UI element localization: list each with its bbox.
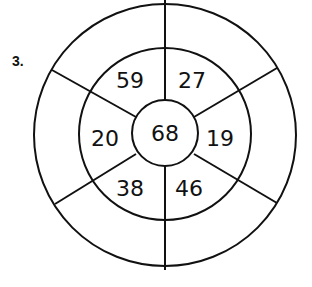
inner-bottom-left-value: 38: [116, 176, 144, 201]
center-value: 68: [151, 121, 179, 146]
number-wheel-diagram: 68 59 27 19 46 38 20: [0, 0, 312, 287]
inner-right-value: 19: [206, 126, 234, 151]
spoke-upper-right: [194, 68, 277, 117]
inner-bottom-right-value: 46: [175, 176, 203, 201]
inner-top-right-value: 27: [178, 68, 206, 93]
inner-left-value: 20: [91, 126, 119, 151]
spoke-lower-right: [194, 154, 277, 203]
inner-top-left-value: 59: [116, 68, 144, 93]
